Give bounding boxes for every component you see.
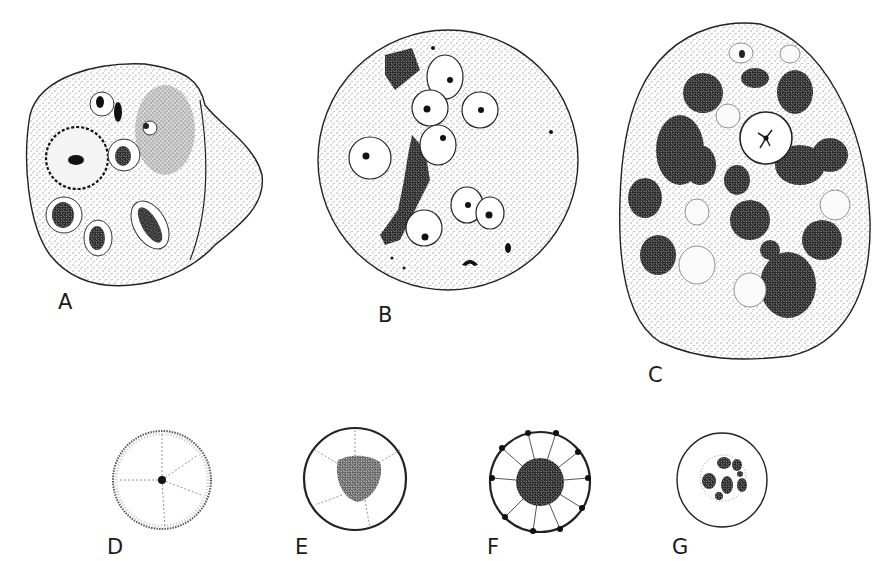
- cell-c: [620, 23, 870, 359]
- label-c: C: [648, 363, 663, 387]
- cell-d: [113, 431, 211, 529]
- label-b: B: [378, 303, 392, 327]
- label-a: A: [58, 290, 72, 314]
- label-e: E: [295, 535, 308, 559]
- cell-e: [304, 428, 406, 530]
- cell-f: [489, 430, 591, 534]
- cell-b: [318, 30, 578, 290]
- label-g: G: [672, 535, 688, 559]
- label-d: D: [107, 535, 123, 559]
- cell-a: [27, 64, 263, 286]
- label-f: F: [487, 535, 499, 559]
- cell-illustration-figure: [0, 0, 886, 561]
- cell-g: [677, 433, 767, 527]
